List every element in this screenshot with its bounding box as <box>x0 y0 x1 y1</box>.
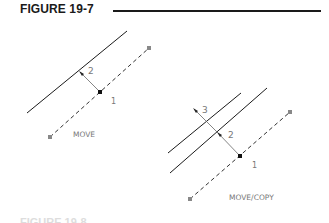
diagram-canvas: 2 1 MOVE 3 2 1 MOVE/COPY <box>0 0 329 223</box>
base-point-marker <box>238 154 242 158</box>
move-copy-caption: MOVE/COPY <box>229 193 274 202</box>
offset-label: 2 <box>88 66 94 76</box>
move-copy-diagram: 3 2 1 MOVE/COPY <box>168 88 292 202</box>
endpoint-marker-end <box>288 110 292 114</box>
base-point-label: 1 <box>252 161 257 170</box>
offset-label-2: 2 <box>228 130 234 140</box>
base-point-marker <box>98 90 102 94</box>
endpoint-marker-start <box>48 135 52 139</box>
copy-line-3 <box>168 93 241 153</box>
move-diagram: 2 1 MOVE <box>27 31 151 139</box>
next-figure-title-partial: FIGURE 19-8 <box>20 216 87 223</box>
move-caption: MOVE <box>73 130 95 139</box>
offset-label-3: 3 <box>202 105 208 115</box>
base-point-label: 1 <box>111 97 116 106</box>
endpoint-marker-start <box>188 197 192 201</box>
endpoint-marker-end <box>147 46 151 50</box>
